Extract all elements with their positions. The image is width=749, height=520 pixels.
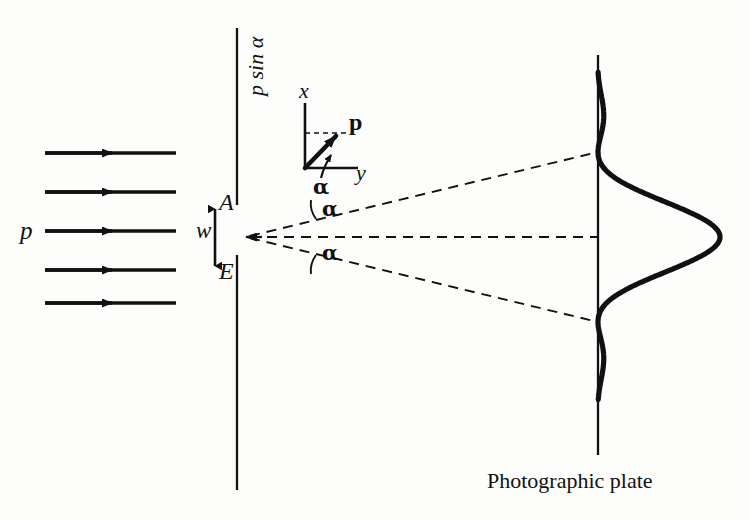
angle-arc-lower [311,255,316,274]
upper-diffracted-ray [250,152,598,236]
slit-top-label: A [219,190,234,214]
transverse-momentum-label: p sin α [245,37,267,96]
slit-width-label: w [196,219,211,242]
slit-bottom-label: E [219,259,234,283]
angle-arc-upper [311,200,316,219]
diffraction-intensity-curve [598,72,720,399]
x-axis-label: x [299,80,309,102]
lower-angle-label: α [322,242,338,263]
vector-angle-label: α [313,176,329,197]
upper-angle-label: α [322,198,338,219]
incident-beam [45,153,176,303]
diffracted-rays [250,152,598,322]
angle-arcs [311,200,316,274]
momentum-vector-label: p [349,110,362,134]
photographic-plate-caption: Photographic plate [487,470,653,492]
y-axis-label: y [356,162,366,184]
diffraction-figure: p w A E p sin α x y p α α α Photographic… [0,0,749,520]
diagram-canvas [0,0,749,520]
incident-momentum-label: p [20,218,33,243]
lower-diffracted-ray [250,238,598,322]
momentum-vector-arrow [305,136,336,168]
